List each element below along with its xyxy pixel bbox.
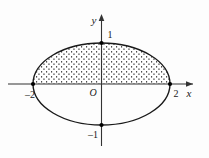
math-figure: x y O –2 2 1 –1 (0, 0, 209, 158)
x-axis-label: x (186, 87, 192, 99)
y-axis-arrow-icon (99, 14, 105, 21)
tick-label-y-top: 1 (108, 29, 113, 40)
y-axis-label: y (91, 14, 97, 26)
vertex-point-right (168, 82, 172, 86)
vertex-point-bottom (99, 123, 103, 127)
tick-label-x-left: –2 (24, 89, 35, 100)
x-axis-arrow-icon (186, 81, 193, 87)
vertex-point-top (99, 41, 103, 45)
origin-label: O (89, 87, 96, 98)
coordinate-plane-diagram: x y O –2 2 1 –1 (0, 0, 209, 158)
tick-label-x-right: 2 (174, 88, 179, 99)
vertex-point-left (31, 82, 35, 86)
tick-label-y-bottom: –1 (87, 129, 98, 140)
